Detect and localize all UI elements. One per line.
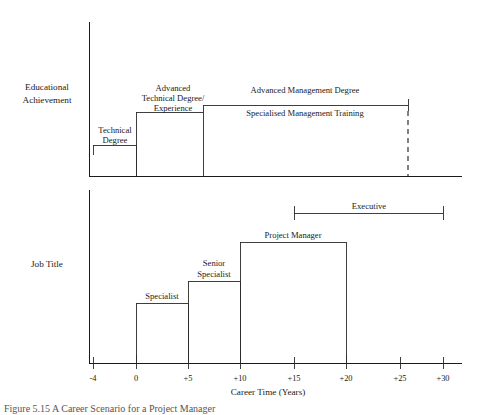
bar-senior-specialist: Senior Specialist xyxy=(188,258,240,363)
tick-label-20: +20 xyxy=(339,374,352,383)
edu-step-advanced-technical-degree: Advanced Technical Degree/ Experience xyxy=(136,83,205,176)
tick-label-0: 0 xyxy=(134,374,138,383)
educational-achievement-label-line1: Educational xyxy=(25,82,69,92)
advanced-technical-label-line1: Advanced xyxy=(156,83,192,93)
project-manager-bar-outline xyxy=(240,242,346,363)
tick-label-15: +15 xyxy=(287,374,300,383)
advanced-technical-label-line3: Experience xyxy=(154,103,193,113)
tick-label--4: -4 xyxy=(90,374,98,383)
panel-job-title: Job Title Executive Specialist Senior Sp… xyxy=(31,190,462,397)
specialist-label: Specialist xyxy=(145,291,179,301)
job-title-axis-label: Job Title xyxy=(31,259,63,269)
panel-educational-achievement: Educational Achievement Technical Degree… xyxy=(23,22,462,176)
senior-specialist-label-line1: Senior xyxy=(203,258,226,268)
x-axis-tick-labels: -4 0 +5 +10 +15 +20 +25 +30 xyxy=(90,374,450,383)
bar-project-manager: Project Manager xyxy=(240,230,346,363)
edu-step-technical-degree: Technical Degree xyxy=(93,125,136,176)
specialist-bar-outline xyxy=(136,303,188,363)
career-scenario-figure: Educational Achievement Technical Degree… xyxy=(0,0,477,415)
x-axis-ticks xyxy=(93,355,443,369)
x-axis-title: Career Time (Years) xyxy=(231,387,306,397)
educational-achievement-label-line2: Achievement xyxy=(23,95,72,105)
tick-label-25: +25 xyxy=(393,374,406,383)
specialised-management-training-label: Specialised Management Training xyxy=(246,108,364,118)
tick-label-5: +5 xyxy=(184,374,193,383)
figure-caption: Figure 5.15 A Career Scenario for a Proj… xyxy=(4,403,216,414)
executive-bracket: Executive xyxy=(294,201,443,220)
tick-label-30: +30 xyxy=(436,374,449,383)
bar-specialist: Specialist xyxy=(136,291,188,363)
edu-step-advanced-management: Advanced Management Degree Specialised M… xyxy=(203,85,408,176)
technical-degree-label-line2: Degree xyxy=(103,135,128,145)
project-manager-label: Project Manager xyxy=(264,230,321,240)
senior-specialist-label-line2: Specialist xyxy=(197,269,231,279)
advanced-management-degree-label: Advanced Management Degree xyxy=(251,85,360,95)
figure-canvas: Educational Achievement Technical Degree… xyxy=(0,0,477,415)
advanced-technical-label-line2: Technical Degree/ xyxy=(142,93,205,103)
technical-degree-label-line1: Technical xyxy=(98,125,132,135)
executive-label: Executive xyxy=(352,201,387,211)
tick-label-10: +10 xyxy=(233,374,246,383)
senior-specialist-bar-outline xyxy=(188,281,240,363)
